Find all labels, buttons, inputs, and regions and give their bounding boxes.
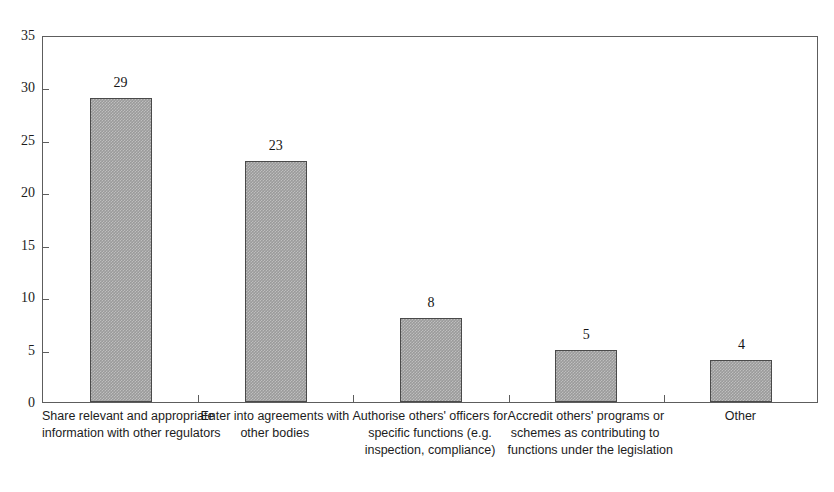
y-axis-tick-label: 30 xyxy=(1,81,35,95)
x-axis-category-label: Enter into agreements withother bodies xyxy=(197,408,352,442)
y-axis-tick-mark xyxy=(43,352,49,353)
y-axis-tick-label: 15 xyxy=(1,239,35,253)
y-axis-tick-mark xyxy=(43,89,49,90)
bar-value-label: 23 xyxy=(246,139,306,153)
y-axis-tick-label: 5 xyxy=(1,344,35,358)
bar xyxy=(245,161,307,402)
x-axis-tick-mark xyxy=(353,395,354,402)
bar xyxy=(400,318,462,402)
bar-value-label: 5 xyxy=(556,328,616,342)
x-axis-category-label: Accredit others' programs orschemes as c… xyxy=(508,408,663,459)
x-axis-category-label: Other xyxy=(663,408,818,425)
y-axis-tick-mark xyxy=(43,247,49,248)
x-axis-category-label: Share relevant and appropriateinformatio… xyxy=(42,408,197,442)
category-label-line: information with other regulators xyxy=(42,425,197,442)
x-axis-category-label: Authorise others' officers forspecific f… xyxy=(352,408,507,459)
category-label-line: specific functions (e.g. xyxy=(352,425,507,442)
x-axis-tick-mark xyxy=(664,395,665,402)
bar-value-label: 4 xyxy=(711,338,771,352)
bar xyxy=(555,350,617,402)
category-label-line: Accredit others' programs or xyxy=(508,408,663,425)
category-label-line: Share relevant and appropriate xyxy=(42,408,197,425)
category-label-line: Authorise others' officers for xyxy=(352,408,507,425)
category-label-line: Enter into agreements with xyxy=(197,408,352,425)
y-axis-tick-label: 25 xyxy=(1,134,35,148)
category-label-line: functions under the legislation xyxy=(508,442,663,459)
category-label-line: other bodies xyxy=(197,425,352,442)
y-axis-labels: 05101520253035 xyxy=(0,36,35,403)
plot-area: 2923854 xyxy=(42,36,818,403)
x-axis-category-labels: Share relevant and appropriateinformatio… xyxy=(42,408,818,480)
x-axis-tick-mark xyxy=(198,395,199,402)
bar-chart: · · · · · · · · · · · · · · · · · · · · … xyxy=(0,0,834,492)
y-axis-tick-mark xyxy=(43,142,49,143)
bar xyxy=(710,360,772,402)
scan-remnant-text: · · · · · · · · · · · · · · · · · · · · … xyxy=(0,0,201,5)
bar xyxy=(90,98,152,402)
x-axis-tick-mark xyxy=(509,395,510,402)
y-axis-tick-label: 35 xyxy=(1,29,35,43)
bar-value-label: 29 xyxy=(91,76,151,90)
category-label-line: Other xyxy=(663,408,818,425)
y-axis-tick-mark xyxy=(43,299,49,300)
category-label-line: schemes as contributing to xyxy=(508,425,663,442)
y-axis-tick-label: 10 xyxy=(1,291,35,305)
y-axis-tick-label: 20 xyxy=(1,186,35,200)
scanned-page-text-remnant: · · · · · · · · · · · · · · · · · · · · … xyxy=(0,0,834,11)
category-label-line: inspection, compliance) xyxy=(352,442,507,459)
y-axis-tick-label: 0 xyxy=(1,396,35,410)
y-axis-tick-mark xyxy=(43,194,49,195)
bar-value-label: 8 xyxy=(401,296,461,310)
